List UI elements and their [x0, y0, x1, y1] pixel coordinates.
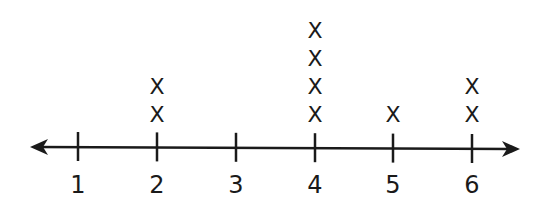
line-plot: 123456 XXXXXXXXX	[0, 0, 547, 206]
x-mark: X	[307, 102, 322, 127]
x-mark: X	[307, 74, 322, 99]
x-mark: X	[464, 102, 479, 127]
tick-label-2: 2	[149, 171, 164, 199]
x-marks: XXXXXXXXX	[149, 18, 479, 127]
tick-labels: 123456	[70, 171, 479, 199]
tick-label-5: 5	[385, 171, 400, 199]
tick-label-6: 6	[464, 171, 479, 199]
x-mark: X	[149, 102, 164, 127]
tick-label-1: 1	[70, 171, 85, 199]
x-mark: X	[307, 46, 322, 71]
x-mark: X	[149, 74, 164, 99]
number-line	[30, 139, 520, 157]
tick-label-4: 4	[307, 171, 322, 199]
x-mark: X	[307, 18, 322, 43]
tick-label-3: 3	[228, 171, 243, 199]
x-mark: X	[385, 102, 400, 127]
x-mark: X	[464, 74, 479, 99]
